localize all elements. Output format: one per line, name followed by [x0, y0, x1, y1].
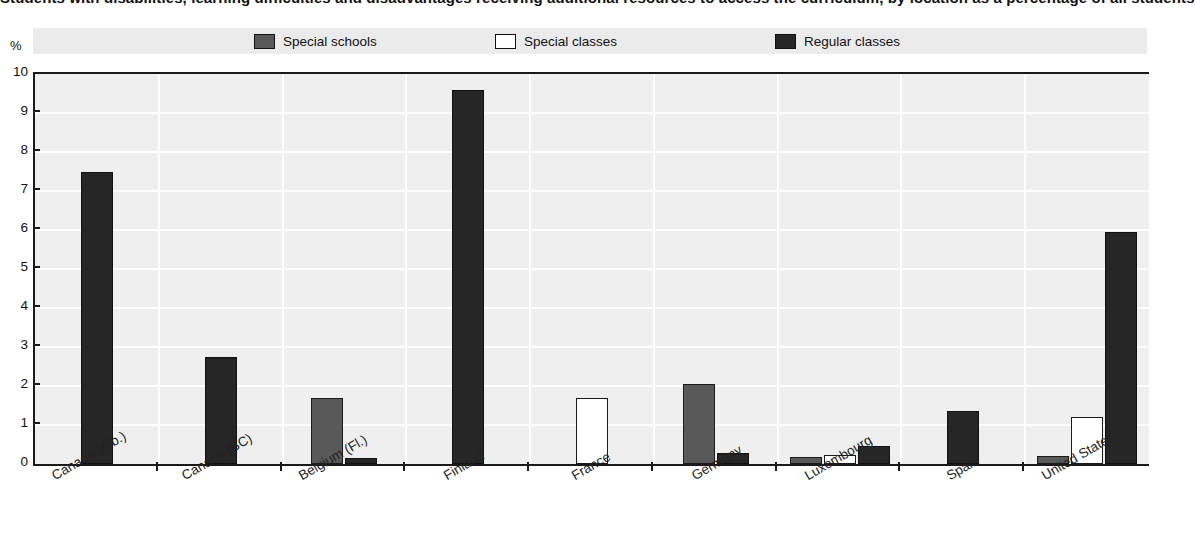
x-axis-tick-mark — [403, 462, 405, 471]
x-gridline — [653, 74, 655, 464]
y-axis-tick-label: 2 — [4, 376, 28, 391]
x-gridline — [529, 74, 531, 464]
x-gridline — [1024, 74, 1026, 464]
bar-regular-classes[interactable] — [81, 172, 113, 465]
y-axis-tick-mark — [33, 149, 40, 151]
x-axis-tick-mark — [1022, 462, 1024, 471]
legend-label-regular-classes: Regular classes — [804, 34, 900, 49]
y-axis-tick-mark — [33, 344, 40, 346]
y-gridline — [35, 190, 1149, 192]
y-gridline — [35, 112, 1149, 114]
y-axis-tick-label: 6 — [4, 220, 28, 235]
y-axis-tick-mark — [33, 383, 40, 385]
plot-frame — [33, 72, 1149, 466]
y-axis-unit-label: % — [10, 38, 22, 53]
bar-regular-classes[interactable] — [452, 90, 484, 464]
x-axis-tick-mark — [527, 462, 529, 471]
y-axis-tick-label: 0 — [4, 454, 28, 469]
chart-title: Students with disabilities, learning dif… — [0, 0, 1147, 6]
x-gridline — [777, 74, 779, 464]
x-axis-tick-mark — [775, 462, 777, 471]
y-gridline — [35, 229, 1149, 231]
bar-regular-classes[interactable] — [345, 458, 377, 464]
y-gridline — [35, 346, 1149, 348]
chart-legend: Special schools Special classes Regular … — [33, 28, 1147, 54]
legend-item-special-schools[interactable]: Special schools — [254, 32, 377, 50]
legend-swatch-regular-classes — [775, 34, 796, 49]
y-axis-tick-label: 7 — [4, 181, 28, 196]
x-axis-tick-mark — [156, 462, 158, 471]
y-axis-tick-label: 5 — [4, 259, 28, 274]
legend-swatch-special-schools — [254, 34, 275, 49]
y-gridline — [35, 385, 1149, 387]
bar-special-schools[interactable] — [683, 384, 715, 464]
legend-swatch-special-classes — [495, 34, 516, 49]
y-axis: 109876543210 — [0, 72, 28, 462]
y-axis-tick-label: 4 — [4, 298, 28, 313]
y-axis-tick-label: 1 — [4, 415, 28, 430]
x-axis-tick-mark — [280, 462, 282, 471]
y-axis-tick-mark — [33, 188, 40, 190]
y-axis-tick-label: 3 — [4, 337, 28, 352]
y-axis-tick-mark — [33, 266, 40, 268]
legend-item-regular-classes[interactable]: Regular classes — [775, 32, 900, 50]
y-axis-tick-label: 8 — [4, 142, 28, 157]
x-gridline — [900, 74, 902, 464]
y-axis-tick-label: 9 — [4, 103, 28, 118]
legend-item-special-classes[interactable]: Special classes — [495, 32, 617, 50]
y-axis-tick-mark — [33, 227, 40, 229]
y-gridline — [35, 307, 1149, 309]
bar-regular-classes[interactable] — [1105, 232, 1137, 464]
y-axis-tick-mark — [33, 422, 40, 424]
y-gridline — [35, 268, 1149, 270]
plot-area — [35, 74, 1149, 464]
y-axis-tick-mark — [33, 305, 40, 307]
x-axis-tick-mark — [898, 462, 900, 471]
legend-label-special-classes: Special classes — [524, 34, 617, 49]
y-axis-tick-label: 10 — [4, 64, 28, 79]
x-gridline — [158, 74, 160, 464]
x-gridline — [405, 74, 407, 464]
y-axis-tick-mark — [33, 110, 40, 112]
x-axis-tick-mark — [651, 462, 653, 471]
x-gridline — [282, 74, 284, 464]
legend-label-special-schools: Special schools — [283, 34, 377, 49]
y-gridline — [35, 151, 1149, 153]
